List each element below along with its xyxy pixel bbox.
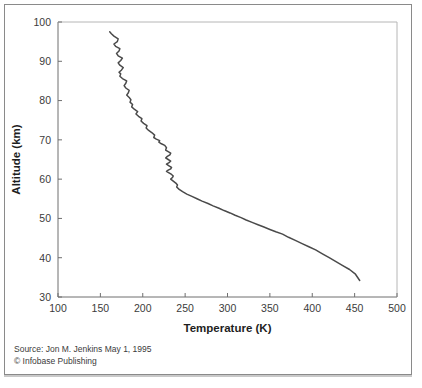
y-tick-label: 50: [39, 212, 51, 224]
plot-box-top-right: [58, 22, 397, 297]
figure-container: 3040506070809010010015020025030035040045…: [0, 0, 422, 388]
y-tick-label: 30: [39, 291, 51, 303]
temperature-profile-curve: [110, 32, 360, 281]
caption-block: Source: Jon M. Jenkins May 1, 1995 © Inf…: [14, 344, 314, 367]
x-tick-label: 400: [303, 302, 321, 314]
bottom-rule: [4, 375, 412, 377]
x-tick-label: 350: [261, 302, 279, 314]
x-tick-label: 150: [92, 302, 110, 314]
x-tick-label: 250: [176, 302, 194, 314]
temperature-altitude-chart: 3040506070809010010015020025030035040045…: [4, 4, 412, 344]
x-tick-label: 100: [49, 302, 67, 314]
x-axis-title: Temperature (K): [184, 322, 272, 334]
x-tick-label: 450: [346, 302, 364, 314]
source-line: Source: Jon M. Jenkins May 1, 1995: [14, 344, 314, 356]
x-tick-label: 300: [219, 302, 237, 314]
x-tick-label: 500: [388, 302, 406, 314]
y-tick-label: 60: [39, 173, 51, 185]
copyright-line: © Infobase Publishing: [14, 356, 314, 368]
x-tick-label: 200: [134, 302, 152, 314]
y-tick-label: 70: [39, 134, 51, 146]
axis-spines: [58, 22, 397, 297]
y-tick-label: 100: [33, 16, 51, 28]
y-tick-label: 90: [39, 55, 51, 67]
y-tick-label: 80: [39, 94, 51, 106]
y-axis-title: Altitude (km): [10, 124, 22, 194]
y-tick-label: 40: [39, 252, 51, 264]
